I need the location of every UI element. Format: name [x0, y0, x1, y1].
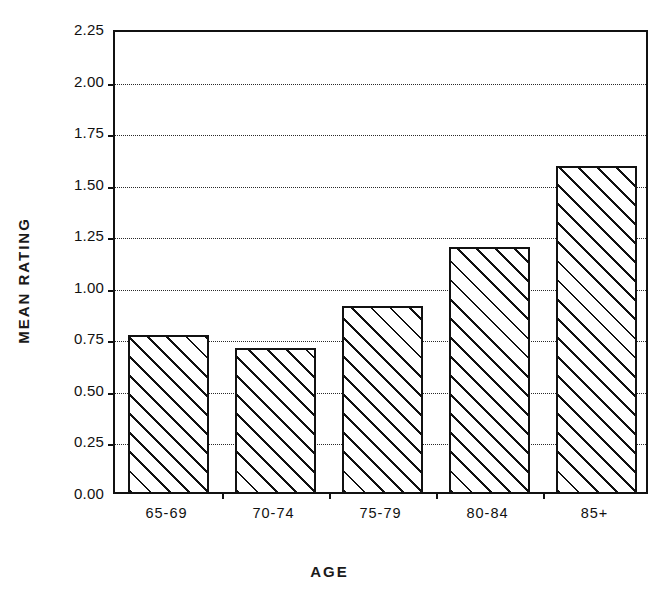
y-axis-tick-label: 1.75 — [40, 125, 104, 140]
y-axis-tick-label: 2.00 — [40, 74, 104, 89]
y-axis-title-text: MEAN RATING — [15, 217, 32, 344]
y-axis-tick-mark — [108, 393, 115, 395]
x-axis-tick-labels: 65-6970-7475-7980-8485+ — [0, 506, 659, 532]
gridline — [115, 135, 646, 136]
y-axis-tick-label: 0.50 — [40, 383, 104, 398]
x-axis-title: AGE — [0, 563, 659, 580]
y-axis-tick-mark — [108, 238, 115, 240]
x-axis-tick-label: 65-69 — [113, 506, 220, 521]
y-axis-tick-label: 1.00 — [40, 280, 104, 295]
y-axis-tick-mark — [108, 341, 115, 343]
x-axis-tick-mark — [329, 492, 331, 499]
bar — [556, 166, 637, 492]
plot-area — [113, 30, 648, 494]
x-axis-tick-label: 80-84 — [434, 506, 541, 521]
y-axis-tick-mark — [108, 290, 115, 292]
x-axis-tick-label: 75-79 — [327, 506, 434, 521]
y-axis-tick-mark — [108, 187, 115, 189]
y-axis-tick-mark — [108, 135, 115, 137]
y-axis-tick-mark — [108, 84, 115, 86]
y-axis-tick-label: 1.50 — [40, 177, 104, 192]
bar-chart: MEAN RATING 0.000.250.500.751.001.251.50… — [0, 0, 659, 597]
y-axis-tick-label: 0.25 — [40, 434, 104, 449]
y-axis-tick-label: 1.25 — [40, 228, 104, 243]
x-axis-tick-label: 70-74 — [220, 506, 327, 521]
x-axis-tick-mark — [222, 492, 224, 499]
y-axis-tick-label: 2.25 — [40, 22, 104, 37]
gridline — [115, 84, 646, 85]
y-axis-tick-label: 0.75 — [40, 331, 104, 346]
x-axis-tick-label: 85+ — [541, 506, 648, 521]
y-axis-tick-mark — [108, 444, 115, 446]
bar — [342, 306, 423, 492]
bar — [449, 247, 530, 492]
x-axis-tick-mark — [543, 492, 545, 499]
x-axis-tick-mark — [436, 492, 438, 499]
bar — [128, 335, 209, 492]
bar — [235, 348, 316, 492]
plot-inner — [115, 32, 646, 492]
y-axis-tick-label: 0.00 — [40, 486, 104, 501]
